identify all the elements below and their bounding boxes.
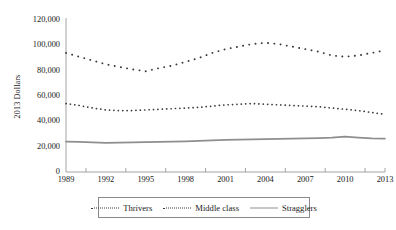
legend-swatch-dotted-sparse-icon bbox=[91, 204, 119, 212]
legend-swatch-solid-icon bbox=[250, 204, 278, 212]
legend-label: Middle class bbox=[195, 203, 239, 213]
legend-item-middle-class[interactable]: Middle class bbox=[163, 203, 239, 213]
legend-label: Stragglers bbox=[282, 203, 317, 213]
legend-label: Thrivers bbox=[123, 203, 152, 213]
legend-item-thrivers[interactable]: Thrivers bbox=[91, 203, 152, 213]
series-line-middle-class bbox=[66, 104, 385, 115]
series-line-thrivers bbox=[66, 43, 385, 72]
legend-item-stragglers[interactable]: Stragglers bbox=[250, 203, 317, 213]
legend-swatch-dotted-dense-icon bbox=[163, 204, 191, 212]
chart-legend: ThriversMiddle classStragglers bbox=[98, 197, 310, 218]
chart-figure: 2013 Dollars 020,00040,00060,00080,00010… bbox=[0, 0, 396, 230]
series-line-stragglers bbox=[66, 137, 385, 143]
plot-area bbox=[0, 0, 396, 230]
